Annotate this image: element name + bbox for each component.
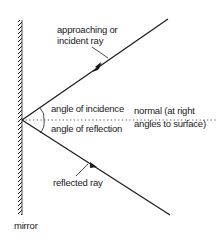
- incident-leader: [92, 47, 108, 58]
- mirror: [18, 20, 22, 215]
- incident-ray-label-2: incident ray: [57, 35, 103, 46]
- reflected-leader: [76, 164, 88, 176]
- reflected-ray-label: reflected ray: [53, 177, 103, 188]
- angle-incidence-arc: [40, 108, 44, 120]
- angle-reflection-arc: [40, 120, 44, 133]
- angle-of-reflection-label: angle of reflection: [51, 123, 122, 134]
- normal-label-2: angles to surface): [134, 118, 206, 129]
- incident-ray-label-1: approaching or: [57, 24, 118, 35]
- mirror-label: mirror: [14, 220, 38, 231]
- reflected-arrow-icon: [90, 162, 97, 168]
- angle-of-incidence-label: angle of incidence: [51, 103, 124, 114]
- reflected-ray: [22, 120, 170, 215]
- normal-label-1: normal (at right: [134, 105, 195, 116]
